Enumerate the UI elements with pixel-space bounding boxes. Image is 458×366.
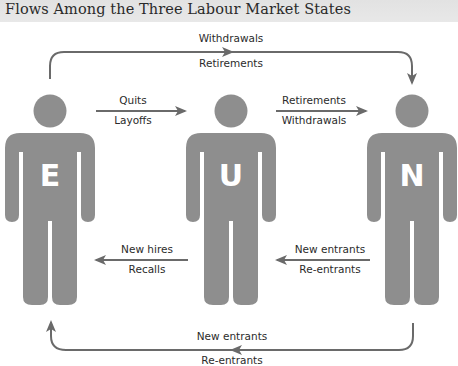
- label-e-to-u-below: Layoffs: [114, 114, 152, 126]
- label-u-to-e-below: Recalls: [129, 263, 166, 275]
- label-e-to-n-below: Retirements: [199, 57, 263, 69]
- label-u-to-n-below: Withdrawals: [282, 114, 347, 126]
- label-u-to-e-above: New hires: [121, 243, 173, 255]
- person-not-in-labour-force-icon: [367, 95, 457, 306]
- label-n-to-u-below: Re-entrants: [299, 263, 360, 275]
- label-n-to-u-above: New entrants: [295, 243, 365, 255]
- person-unemployed-icon: [186, 95, 276, 306]
- label-u-to-n-above: Retirements: [282, 94, 346, 106]
- state-letter-n: N: [399, 158, 424, 193]
- state-letter-u: U: [219, 158, 243, 193]
- person-employed-icon: [5, 95, 95, 306]
- state-letter-e: E: [40, 158, 61, 193]
- label-n-to-e-below: Re-entrants: [201, 354, 262, 366]
- label-e-to-n-above: Withdrawals: [199, 32, 264, 44]
- label-n-to-e-above: New entrants: [197, 330, 267, 342]
- label-e-to-u-above: Quits: [119, 94, 146, 106]
